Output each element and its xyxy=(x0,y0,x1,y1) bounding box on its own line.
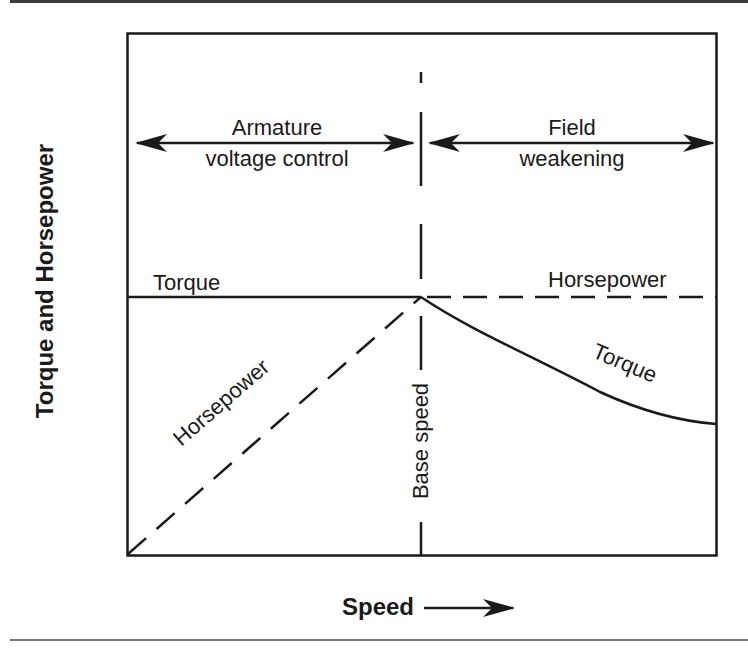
torque-label-curve: Torque xyxy=(589,338,661,387)
x-axis-title: Speed xyxy=(342,593,414,620)
base-speed-label: Base speed xyxy=(408,383,433,499)
torque-horsepower-diagram: Armature voltage control Field weakening… xyxy=(0,0,748,654)
horsepower-label-right: Horsepower xyxy=(548,267,667,292)
horsepower-label-diagonal: Horsepower xyxy=(168,354,274,451)
horsepower-rising-line xyxy=(128,297,421,554)
field-label-line1: Field xyxy=(548,115,596,140)
armature-label-line1: Armature xyxy=(232,115,322,140)
armature-label-line2: voltage control xyxy=(205,146,348,171)
field-label-line2: weakening xyxy=(518,146,624,171)
torque-decreasing-curve xyxy=(421,297,716,424)
y-axis-title: Torque and Horsepower xyxy=(31,144,58,418)
torque-label-left: Torque xyxy=(153,270,220,295)
